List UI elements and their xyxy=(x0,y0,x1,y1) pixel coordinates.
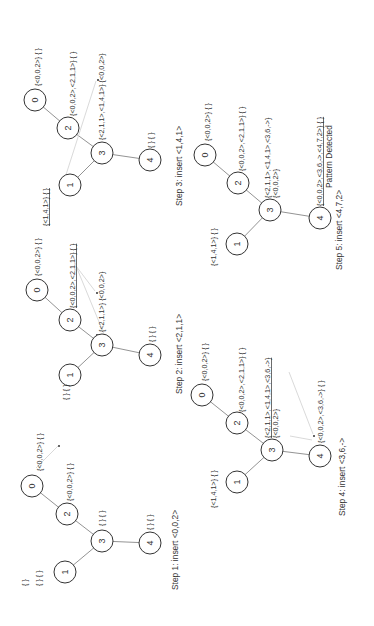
pattern-detected-status: Pattern Detected xyxy=(324,125,334,188)
reference-dot xyxy=(58,445,60,447)
node-0: 0 xyxy=(194,144,216,166)
step-3-graph: 0 2 3 4 1 {<0,0,2>} { } {<0,0,2>,<2,1,1>… xyxy=(24,47,184,226)
svg-text:0: 0 xyxy=(30,97,40,102)
step-2-caption: Step 2: insert <2,1,1> xyxy=(174,314,184,394)
node-2: 2 xyxy=(59,309,81,331)
node-0: 0 xyxy=(191,384,213,406)
svg-text:3: 3 xyxy=(97,342,107,347)
node-3: 3 xyxy=(91,334,113,356)
node-3: 3 xyxy=(91,142,113,164)
step-5-caption: Step 5: insert <4,7,2> xyxy=(334,190,344,270)
node-4-label: {<0,0,2>,<3,6,->} { } xyxy=(316,380,325,443)
node-3: 3 xyxy=(91,530,113,552)
svg-text:1: 1 xyxy=(65,182,75,187)
svg-text:4: 4 xyxy=(145,157,155,162)
reference-line xyxy=(289,372,313,434)
node-1: 1 xyxy=(226,233,248,255)
node-4: 4 xyxy=(139,532,161,554)
node-2: 2 xyxy=(56,503,78,525)
reference-dot xyxy=(313,435,315,437)
reference-line-2 xyxy=(290,436,312,440)
node-2-label: {<0,0,2>,<2,1,1>} { } xyxy=(237,106,246,171)
node-3-label-2: {<0,0,2>} xyxy=(271,408,280,438)
node-1: 1 xyxy=(59,174,81,196)
node-2-label: {<0,0,2>,<2,1,1>} { } xyxy=(68,51,77,116)
node-0-label: {<0,0,2>} { } xyxy=(203,102,212,141)
node-1: 1 xyxy=(59,364,81,386)
node-1-label: {<1,4,1>} { } xyxy=(209,227,218,266)
node-3-label-2: {<0,0,2>} xyxy=(271,168,280,198)
node-2-label: {<0,0,2>,<2,1,1>} { } xyxy=(68,243,77,308)
node-0-label: {<0,0,2>} { } xyxy=(200,342,209,381)
step-4-caption: Step 4: insert <3,6,-> xyxy=(337,438,347,516)
svg-text:0: 0 xyxy=(200,152,210,157)
node-4-label: { } { } xyxy=(145,514,154,530)
node-0-label: {<0,0,2>} { } xyxy=(33,47,42,86)
svg-text:4: 4 xyxy=(145,540,155,545)
node-2: 2 xyxy=(226,412,248,434)
node-0: 0 xyxy=(26,279,48,301)
node-3: 3 xyxy=(259,199,281,221)
svg-text:0: 0 xyxy=(197,392,207,397)
svg-text:3: 3 xyxy=(97,150,107,155)
node-3-label: { } { } xyxy=(97,510,106,526)
step-3-caption: Step 3: insert <1,4,1> xyxy=(174,126,184,206)
svg-text:2: 2 xyxy=(65,317,75,322)
svg-text:0: 0 xyxy=(32,287,42,292)
node-1-label: {<1,4,1>} { } xyxy=(209,469,218,508)
node-4-label: { } { } xyxy=(146,132,155,148)
svg-text:2: 2 xyxy=(233,180,243,185)
step-5-graph: 0 2 3 4 1 {<0,0,2>} { } {<0,0,2>,<2,1,1>… xyxy=(194,102,344,270)
node-4: 4 xyxy=(309,207,331,229)
svg-text:3: 3 xyxy=(97,538,107,543)
node-1: 1 xyxy=(226,471,248,493)
node-1-label: { } { } xyxy=(61,384,70,400)
node-4: 4 xyxy=(139,344,161,366)
step-1-graph: 0 2 3 4 1 {<0,0,2>} { } {<0,0,2>} { } { … xyxy=(20,432,180,590)
node-4: 4 xyxy=(309,445,331,467)
svg-text:2: 2 xyxy=(62,511,72,516)
reference-line xyxy=(76,266,95,291)
svg-text:2: 2 xyxy=(63,125,73,130)
diagram-canvas: 0 2 3 4 1 {<0,0,2>} { } {<0,0,2>} { } { … xyxy=(0,0,374,626)
node-1-label: {<1,4,1>} { } xyxy=(41,187,50,226)
node-2: 2 xyxy=(57,117,79,139)
svg-text:3: 3 xyxy=(265,207,275,212)
extra-label: { } xyxy=(20,579,29,586)
svg-text:4: 4 xyxy=(145,352,155,357)
svg-text:1: 1 xyxy=(60,569,70,574)
svg-text:0: 0 xyxy=(27,483,37,488)
node-0-label: {<0,0,2>} { } xyxy=(33,237,42,276)
node-0: 0 xyxy=(21,475,43,497)
svg-text:1: 1 xyxy=(65,372,75,377)
svg-text:3: 3 xyxy=(267,447,277,452)
node-3-label: {<2,1,1>,<1,4,1>} {<0,0,2>} xyxy=(97,53,106,140)
node-3-label: {<2,1,1>} {<0,0,2>} xyxy=(97,271,106,332)
svg-text:1: 1 xyxy=(232,479,242,484)
node-2-label: {<0,0,2>,<2,1,1>} { } xyxy=(237,347,246,412)
step-1-caption: Step 1: insert <0,0,2> xyxy=(170,510,180,590)
node-4-label: { } { } xyxy=(147,326,156,342)
svg-text:4: 4 xyxy=(315,215,325,220)
node-4-label: {<0,0,2>,<3,6,->,<4,7,2>} { } xyxy=(315,116,324,206)
step-2-graph: 0 2 3 4 1 {<0,0,2>} { } {<0,0,2>,<2,1,1>… xyxy=(26,237,184,400)
node-2-label: {<0,0,2>} { } xyxy=(65,462,74,501)
step-4-graph: 0 2 3 4 1 {<0,0,2>} { } {<0,0,2>,<2,1,1>… xyxy=(191,342,347,516)
svg-text:1: 1 xyxy=(232,241,242,246)
svg-text:4: 4 xyxy=(315,453,325,458)
node-0-label: {<0,0,2>} { } xyxy=(35,432,44,471)
node-2: 2 xyxy=(227,172,249,194)
svg-text:2: 2 xyxy=(232,420,242,425)
node-3: 3 xyxy=(261,439,283,461)
node-4: 4 xyxy=(139,149,161,171)
node-0: 0 xyxy=(24,89,46,111)
node-1: 1 xyxy=(54,561,76,583)
node-1-label: { } { } xyxy=(34,570,43,586)
